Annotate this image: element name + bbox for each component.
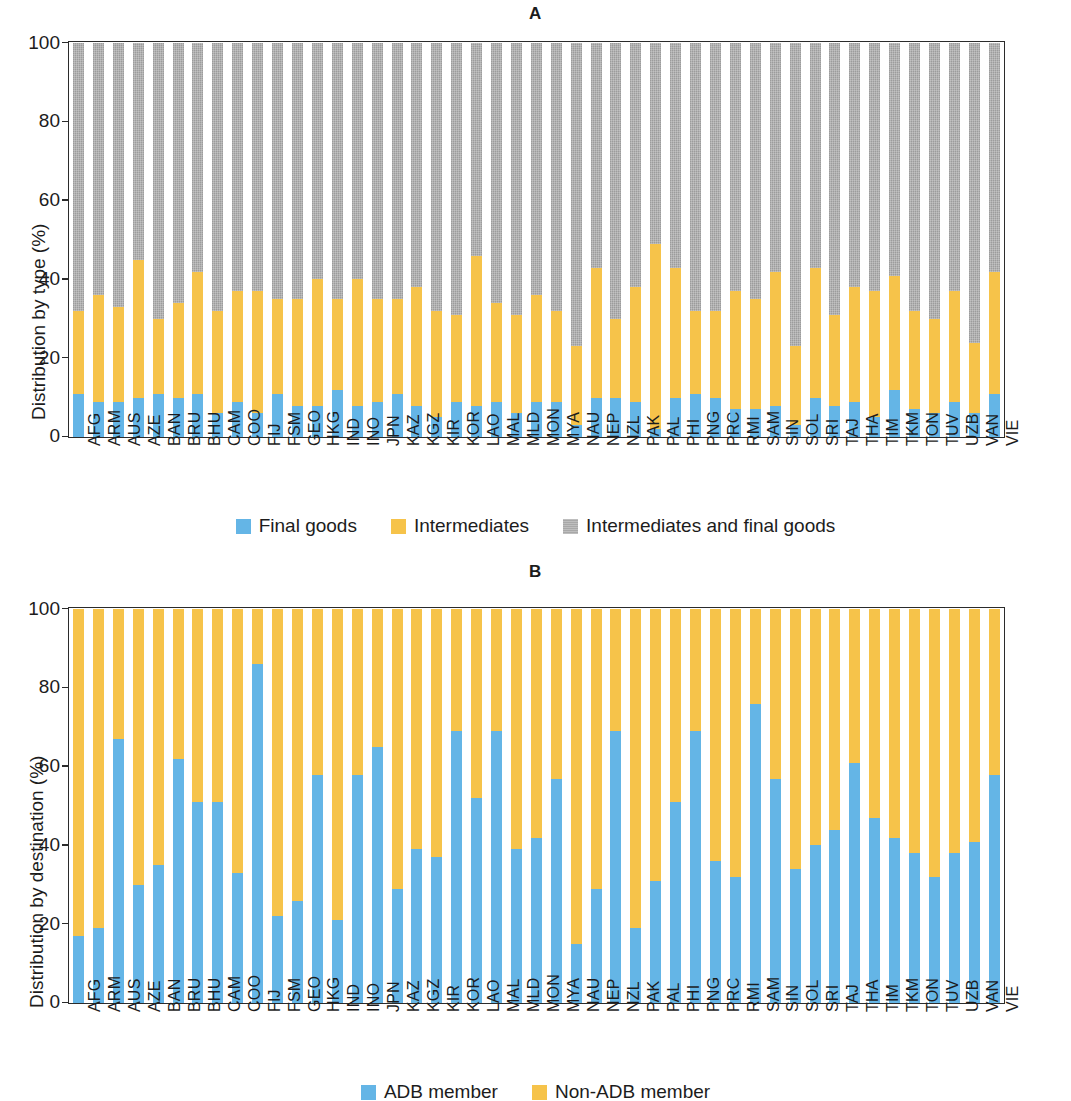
bar-aus <box>113 42 124 437</box>
x-tick-label-sri: SRI <box>824 985 842 1012</box>
bar-pak <box>630 608 641 1003</box>
bar-segment-afg-final-goods <box>73 394 84 437</box>
y-tick-label-40: 40 <box>14 834 60 856</box>
y-tick-label-80: 80 <box>14 676 60 698</box>
bar-segment-uzb-intermediates <box>949 291 960 401</box>
bar-tim <box>869 608 880 1003</box>
bar-ind <box>332 608 343 1003</box>
x-tick-label-arm: ARM <box>106 976 124 1012</box>
panel-b-legend: ADB memberNon-ADB member <box>0 1081 1071 1101</box>
x-tick-label-sin: SIN <box>784 419 802 446</box>
legend-item-intermediates[interactable]: Intermediates <box>391 515 529 537</box>
x-tick-label-mon: MON <box>545 408 563 446</box>
bar-kor <box>451 42 462 437</box>
y-tick-label-80: 80 <box>14 110 60 132</box>
legend-item-adb-member[interactable]: ADB member <box>361 1081 498 1101</box>
bar-segment-nep-non-adb-member <box>591 609 602 889</box>
bar-phi <box>670 42 681 437</box>
bar-segment-jpn-non-adb-member <box>372 609 383 747</box>
x-tick-label-van: VAN <box>984 980 1002 1012</box>
x-tick-label-cam: CAM <box>226 410 244 446</box>
bar-segment-mal-adb-member <box>491 731 502 1003</box>
bar-segment-pal-non-adb-member <box>650 609 661 881</box>
bar-segment-kgz-non-adb-member <box>411 609 422 849</box>
x-tick-label-bhu: BHU <box>206 412 224 446</box>
x-tick-label-png: PNG <box>705 411 723 446</box>
x-tick-label-phi: PHI <box>685 985 703 1012</box>
bar-segment-ino-adb-member <box>352 775 363 1003</box>
bar-segment-tkm-non-adb-member <box>889 609 900 837</box>
x-tick-label-tha: THA <box>864 413 882 446</box>
bar-sri <box>810 42 821 437</box>
legend-label: Non-ADB member <box>555 1081 710 1101</box>
bar-segment-png-non-adb-member <box>690 609 701 731</box>
bar-segment-sol-non-adb-member <box>790 609 801 869</box>
bar-sol <box>790 42 801 437</box>
bar-lao <box>471 42 482 437</box>
bar-segment-sri-non-adb-member <box>810 609 821 845</box>
bar-segment-taj-non-adb-member <box>829 609 840 830</box>
bar-kor <box>451 608 462 1003</box>
bar-segment-afg-intermediates-and-final-goods <box>73 43 84 311</box>
bar-segment-jpn-intermediates <box>372 299 383 401</box>
bar-lao <box>471 608 482 1003</box>
bar-arm <box>93 608 104 1003</box>
legend-item-final-goods[interactable]: Final goods <box>236 515 357 537</box>
y-tick-label-20: 20 <box>14 347 60 369</box>
bar-segment-sol-intermediates <box>790 346 801 425</box>
bar-nau <box>571 42 582 437</box>
bar-segment-mal-intermediates-and-final-goods <box>491 43 502 303</box>
y-tick-label-20: 20 <box>14 913 60 935</box>
y-tick-label-100: 100 <box>14 32 60 54</box>
bar-hkg <box>312 42 323 437</box>
bar-segment-kaz-non-adb-member <box>392 609 403 889</box>
bar-segment-mya-intermediates <box>551 311 562 402</box>
bar-segment-afg-adb-member <box>73 936 84 1003</box>
x-tick-label-prc: PRC <box>725 978 743 1012</box>
bar-segment-phi-intermediates <box>670 268 681 398</box>
bar-segment-fsm-intermediates <box>272 299 283 394</box>
bar-segment-coo-intermediates <box>232 291 243 401</box>
bar-segment-tuv-intermediates-and-final-goods <box>929 43 940 319</box>
bar-segment-arm-intermediates-and-final-goods <box>93 43 104 295</box>
x-tick-label-hkg: HKG <box>325 977 343 1012</box>
bar-cam <box>212 608 223 1003</box>
bar-segment-tha-adb-member <box>849 763 860 1003</box>
bar-segment-ban-intermediates-and-final-goods <box>153 43 164 319</box>
bar-segment-vie-intermediates <box>989 272 1000 394</box>
x-tick-label-geo: GEO <box>306 976 324 1012</box>
x-tick-label-sin: SIN <box>784 985 802 1012</box>
x-tick-label-png: PNG <box>705 977 723 1012</box>
bar-segment-tuv-intermediates <box>929 319 940 414</box>
bar-segment-sam-adb-member <box>750 704 761 1003</box>
bar-segment-mon-intermediates-and-final-goods <box>531 43 542 295</box>
x-tick-label-kaz: KAZ <box>405 414 423 446</box>
x-tick-label-mld: MLD <box>525 978 543 1012</box>
bar-segment-bru-intermediates <box>173 303 184 398</box>
legend-item-non-adb-member[interactable]: Non-ADB member <box>532 1081 710 1101</box>
bar-ton <box>909 608 920 1003</box>
x-tick-label-mal: MAL <box>505 979 523 1013</box>
bar-segment-bru-intermediates-and-final-goods <box>173 43 184 303</box>
bar-sol <box>790 608 801 1003</box>
legend-item-intermediates-and-final-goods[interactable]: Intermediates and final goods <box>563 515 835 537</box>
x-tick-label-pak: PAK <box>645 981 663 1012</box>
bar-segment-mon-non-adb-member <box>531 609 542 837</box>
bar-segment-mon-intermediates <box>531 295 542 401</box>
bar-segment-uzb-intermediates-and-final-goods <box>949 43 960 291</box>
x-tick-label-hkg: HKG <box>325 411 343 446</box>
bar-sin <box>770 42 781 437</box>
bar-segment-png-intermediates <box>690 311 701 394</box>
bar-rmi <box>730 608 741 1003</box>
bar-ton <box>909 42 920 437</box>
bar-segment-fij-intermediates-and-final-goods <box>252 43 263 291</box>
x-tick-label-ban: BAN <box>166 413 184 447</box>
x-tick-label-lao: LAO <box>485 979 503 1012</box>
x-tick-label-coo: COO <box>246 409 264 446</box>
bar-segment-arm-intermediates <box>93 295 104 401</box>
bar-taj <box>829 42 840 437</box>
bar-segment-pak-intermediates-and-final-goods <box>630 43 641 287</box>
x-tick-label-jpn: JPN <box>385 415 403 446</box>
x-tick-label-sol: SOL <box>804 979 822 1012</box>
bar-segment-afg-intermediates <box>73 311 84 394</box>
